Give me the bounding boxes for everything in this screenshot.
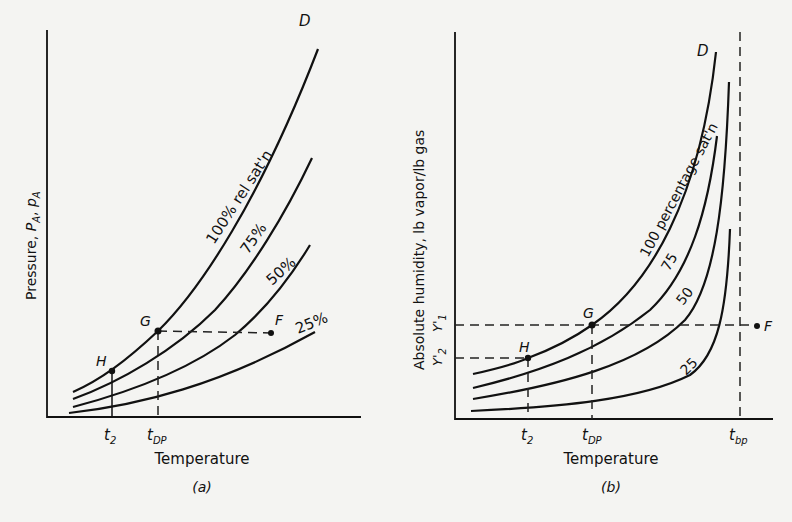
panel-a-label-G: G [140, 313, 151, 329]
panel-b-curve-label-25: 25 [677, 354, 701, 378]
panel-b-tick-tbp: tbp [729, 426, 748, 446]
panel-b-axes [455, 32, 773, 419]
panel-a-tick-t2: t2 [104, 426, 116, 446]
panel-b-tick-tdp: tDP [582, 426, 603, 446]
panel-b-label-H: H [519, 339, 530, 355]
panel-a-label-F: F [275, 312, 284, 328]
panel-b-ylabel: Absolute humidity, lb vapor/lb gas [411, 130, 427, 370]
panel-b-label-F: F [764, 318, 773, 334]
panel-a-dashed-G-F [158, 331, 271, 333]
panel-a-curve-100 [73, 49, 318, 392]
panel-a-curve-label-50: 50% [263, 253, 300, 289]
panel-b-point-H [525, 355, 531, 361]
panel-a-tick-tdp: tDP [147, 426, 168, 446]
panel-a-label-D: D [299, 12, 311, 30]
panel-b-point-F [754, 323, 760, 329]
panel-b-label-G: G [583, 305, 594, 321]
panel-b-curve-50 [473, 82, 729, 399]
panel-b: D G H F 100 percentage sat'n 75 50 25 Ab… [411, 32, 773, 495]
figure: D G H F 100% rel sat'n 75% 50% 25% Press… [0, 0, 792, 522]
panel-a-caption: (a) [192, 479, 212, 495]
panel-a-label-H: H [96, 353, 107, 369]
panel-b-curve-label-75: 75 [658, 250, 681, 273]
panel-a-xlabel: Temperature [153, 450, 249, 468]
panel-a-point-F [268, 330, 274, 336]
panel-b-xlabel: Temperature [562, 450, 658, 468]
panel-a: D G H F 100% rel sat'n 75% 50% 25% Press… [23, 12, 361, 495]
panel-b-ytick-Y1: Y'1 [430, 314, 448, 332]
panel-a-point-H [109, 368, 115, 374]
panel-a-point-G [155, 328, 162, 335]
panel-b-curve-label-50: 50 [673, 284, 697, 308]
panel-b-ytick-Y2: Y'2 [430, 348, 448, 366]
panel-a-curve-label-75: 75% [237, 220, 271, 258]
panel-a-axes [47, 30, 361, 417]
panel-b-label-D: D [697, 42, 709, 60]
panel-b-tick-t2: t2 [521, 426, 533, 446]
panel-b-point-G [589, 322, 596, 329]
panel-a-ylabel: Pressure, PA, pA [23, 191, 42, 300]
panel-b-caption: (b) [601, 479, 621, 495]
